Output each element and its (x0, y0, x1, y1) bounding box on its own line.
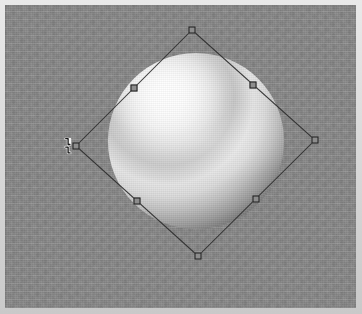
handle-bottom[interactable] (195, 253, 202, 260)
handle-bottom-left[interactable] (134, 198, 141, 205)
handle-right[interactable] (312, 137, 319, 144)
resize-cursor (64, 138, 75, 155)
handle-top-right[interactable] (250, 82, 257, 89)
app-window (0, 0, 362, 314)
handle-top-left[interactable] (131, 85, 138, 92)
perspective-viewport[interactable] (5, 5, 356, 308)
handle-top[interactable] (189, 27, 196, 34)
handle-bottom-right[interactable] (253, 196, 260, 203)
viewport-frame (0, 0, 362, 314)
